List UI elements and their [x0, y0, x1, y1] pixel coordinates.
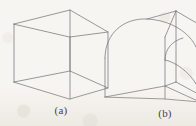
solid-b-near-fillet-arc: [165, 60, 196, 84]
panel-caption-b: (b): [151, 108, 179, 119]
shape-cube-a: [14, 10, 108, 99]
solid-b-inner-fillet-arc: [147, 19, 196, 47]
shape-rounded-cube-b: [105, 11, 196, 102]
figure-container: (a) (b): [0, 0, 196, 126]
cube-a-bottom-face-edges: [14, 71, 108, 99]
cube-a-top-face-edges: [14, 10, 108, 37]
solid-b-edge-top-back-right: [176, 11, 196, 25]
solid-b-bottom-face-edges: [105, 86, 196, 102]
solid-b-near-fillet-arc-upper: [165, 38, 183, 60]
panel-caption-a: (a): [47, 105, 75, 116]
solid-b-outer-top-profile: [105, 11, 176, 58]
solid-b-edge-bottom-back-left: [165, 82, 176, 86]
solid-b-edge-bottom-back-right: [176, 82, 196, 95]
